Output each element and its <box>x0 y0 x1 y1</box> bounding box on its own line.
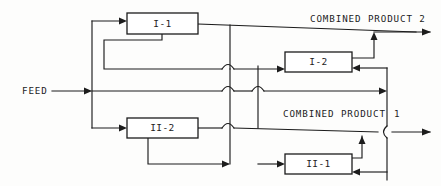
unit-I-1-outlet-line <box>198 24 416 32</box>
flowsheet-canvas: I-1 I-2 II-2 II-1 FEED COMBINED PRODUCT … <box>0 0 441 186</box>
unit-I-2-outlet-line <box>352 36 374 58</box>
arrow-feed-into-header <box>84 88 92 95</box>
arrow-recycle-into-unit-I-2 <box>352 65 360 72</box>
unit-II-2-outlet-to-product <box>234 128 378 132</box>
stream-label-feed: FEED <box>22 85 48 96</box>
arrow-combined-product-2-out <box>422 29 431 36</box>
unit-II-2-recycle <box>148 138 228 164</box>
arrow-unit-II-1-to-product-1 <box>359 136 366 144</box>
unit-I-1-recycle-hop <box>222 65 234 70</box>
stream-label-combined-product-1: COMBINED PRODUCT <box>283 108 386 119</box>
stream-label-combined-product-1-number: 1 <box>394 108 400 119</box>
arrow-feed-to-collector <box>379 88 387 95</box>
unit-II-1-outlet-line <box>352 136 362 158</box>
unit-II-2-label: II-2 <box>150 122 174 133</box>
unit-I-1-label: I-1 <box>153 18 171 29</box>
arrow-into-unit-II-1 <box>277 161 285 168</box>
unit-I-2-label: I-2 <box>309 56 327 67</box>
arrow-unit-I-2-to-product-2 <box>371 32 378 40</box>
unit-II-2-outlet-hop <box>222 124 234 129</box>
unit-block-I-1[interactable]: I-1 <box>127 13 198 34</box>
arrow-into-unit-I-1 <box>119 18 127 25</box>
stream-lines <box>52 21 430 180</box>
arrow-into-bottom-riser <box>222 161 230 168</box>
arrow-combined-product-1-out <box>422 129 431 136</box>
unit-I-1-recycle-top <box>104 34 222 69</box>
stream-label-combined-product-2: COMBINED PRODUCT 2 <box>310 13 426 24</box>
feed-main-line-hop-1 <box>222 87 234 92</box>
arrow-into-unit-I-2 <box>277 66 285 73</box>
unit-II-1-label: II-1 <box>306 158 330 169</box>
process-flow-diagram: I-1 I-2 II-2 II-1 FEED COMBINED PRODUCT … <box>0 0 441 186</box>
unit-block-I-2[interactable]: I-2 <box>285 52 352 72</box>
arrow-into-unit-II-2 <box>119 125 127 132</box>
arrow-recycle-into-unit-II-1 <box>352 169 360 176</box>
unit-boxes: I-1 I-2 II-2 II-1 <box>127 13 352 174</box>
unit-block-II-1[interactable]: II-1 <box>285 154 352 174</box>
right-collector-hop <box>384 126 388 138</box>
unit-block-II-2[interactable]: II-2 <box>127 118 198 138</box>
